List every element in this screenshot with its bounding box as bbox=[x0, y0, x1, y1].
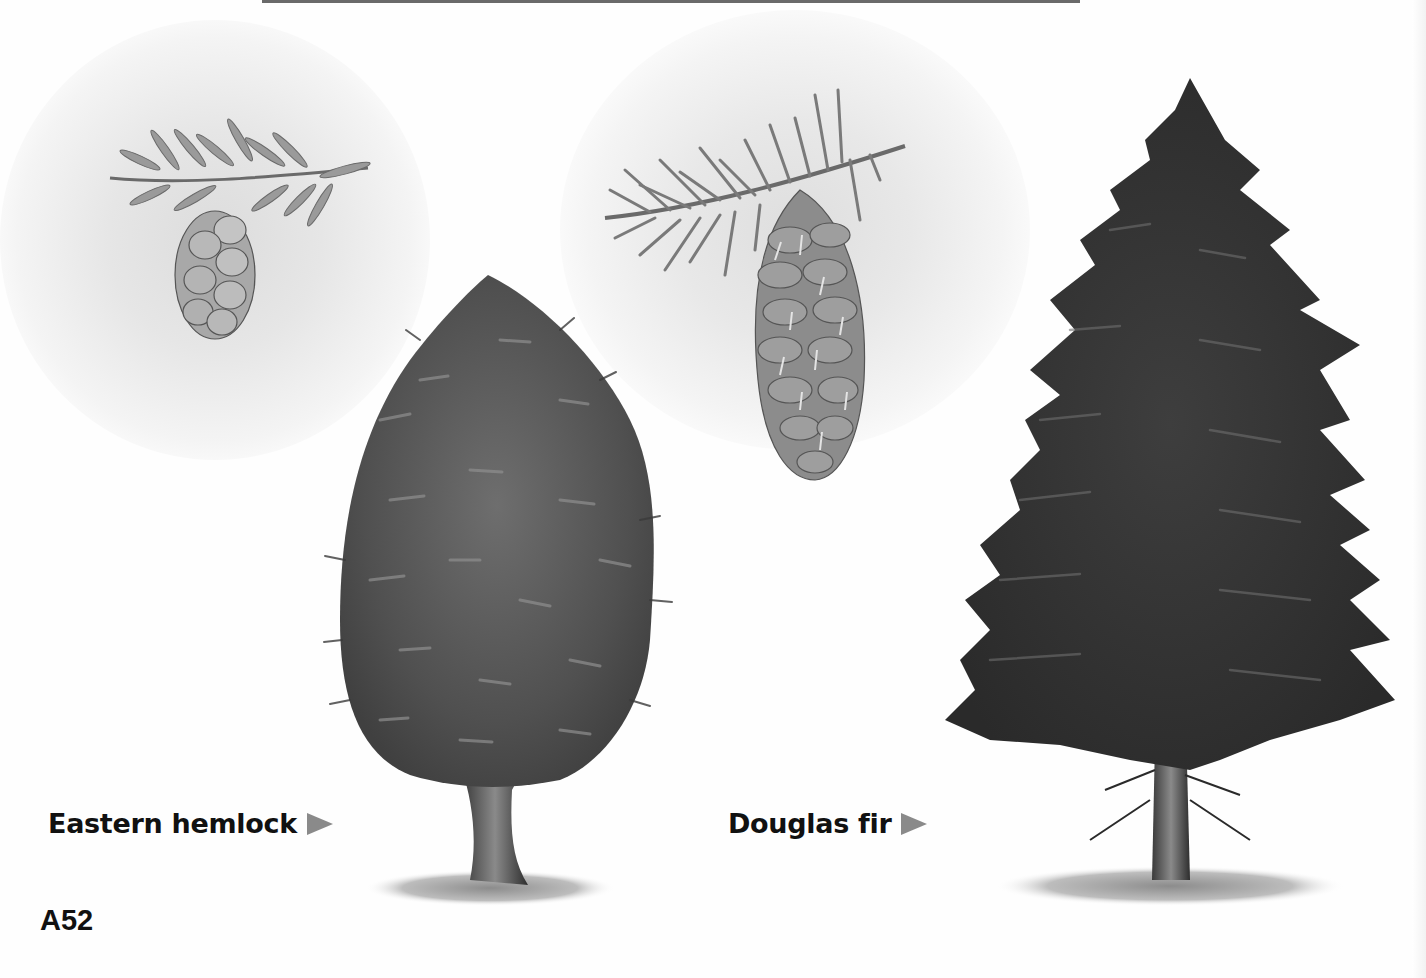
fir-branch-icon bbox=[605, 90, 905, 480]
douglas-fir-tree-icon bbox=[945, 78, 1395, 906]
douglas-fir-label-text: Douglas fir bbox=[728, 808, 891, 839]
douglas-fir-label: Douglas fir bbox=[728, 808, 927, 839]
pointer-arrow-icon bbox=[901, 813, 927, 835]
pointer-arrow-icon bbox=[307, 813, 333, 835]
eastern-hemlock-label-text: Eastern hemlock bbox=[48, 808, 297, 839]
page-number: A52 bbox=[40, 904, 93, 937]
eastern-hemlock-label: Eastern hemlock bbox=[48, 808, 333, 839]
textbook-page: Eastern hemlock Douglas fir A52 bbox=[0, 0, 1426, 978]
eastern-hemlock-tree-icon bbox=[324, 275, 672, 906]
hemlock-branch-icon bbox=[110, 117, 371, 339]
